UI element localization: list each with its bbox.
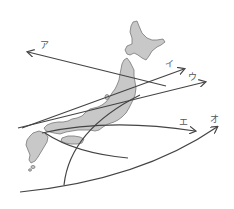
honshu-island [44, 58, 136, 134]
southern-island [29, 169, 32, 171]
label-e: エ [179, 118, 188, 127]
japan-map-diagram [0, 0, 234, 209]
kyushu-island [26, 131, 48, 163]
label-i: イ [165, 60, 174, 69]
label-u: ウ [188, 73, 197, 82]
arrow-o [20, 127, 217, 192]
hokkaido-island [125, 21, 165, 60]
southern-island [31, 166, 35, 169]
label-o: オ [210, 115, 219, 124]
branch-line [45, 133, 128, 158]
label-a: ア [40, 41, 49, 50]
